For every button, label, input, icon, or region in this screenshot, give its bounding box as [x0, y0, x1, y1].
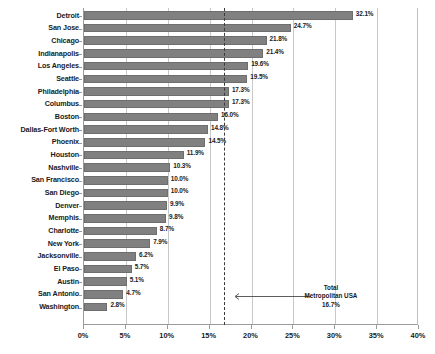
bar-value-label: 8.7%	[160, 225, 174, 232]
value-axis: 0%5%10%15%20%25%30%35%40%	[83, 325, 418, 347]
category-label: Chicago	[0, 35, 79, 48]
category-tick	[79, 155, 82, 156]
bar-row: 11.9%	[84, 149, 417, 162]
category-label: San Antonio	[0, 288, 79, 301]
bar-chart: DetroitSan JoseChicagoIndianapolisLos An…	[0, 0, 435, 354]
bar-row: 5.7%	[84, 263, 417, 276]
bar-row: 14.5%	[84, 136, 417, 149]
bar-value-label: 10.3%	[173, 162, 191, 169]
category-tick	[79, 130, 82, 131]
category-tick	[79, 41, 82, 42]
bar-value-label: 5.7%	[135, 263, 149, 270]
value-axis-label: 25%	[285, 331, 300, 340]
category-label: Charlotte	[0, 225, 79, 238]
bar-row: 14.8%	[84, 124, 417, 137]
category-tick	[79, 231, 82, 232]
bar	[84, 100, 229, 109]
category-tick	[79, 54, 82, 55]
bar-value-label: 7.9%	[153, 238, 167, 245]
bar-value-label: 5.1%	[130, 276, 144, 283]
value-axis-tick	[334, 325, 335, 329]
category-tick	[79, 282, 82, 283]
annotation-line-3: 16.7%	[286, 301, 376, 309]
category-tick	[79, 79, 82, 80]
bar	[84, 36, 267, 45]
category-label: Seattle	[0, 73, 79, 86]
bar-value-label: 9.9%	[170, 200, 184, 207]
category-tick	[79, 244, 82, 245]
reference-line-annotation: Total Metropolitan USA 16.7%	[286, 284, 376, 309]
value-axis-tick	[83, 325, 84, 329]
bar-value-label: 11.9%	[187, 149, 204, 156]
category-tick	[79, 67, 82, 68]
category-label: Phoenix	[0, 136, 79, 149]
category-tick	[79, 308, 82, 309]
annotation-line-1: Total	[286, 284, 376, 292]
bar	[84, 138, 205, 147]
value-axis-tick	[167, 325, 168, 329]
bar-row: 9.8%	[84, 212, 417, 225]
bar-row: 19.6%	[84, 60, 417, 73]
value-axis-tick	[418, 325, 419, 329]
bar-value-label: 19.5%	[250, 73, 268, 80]
plot-area: 32.1%24.7%21.8%21.4%19.6%19.5%17.3%17.3%…	[83, 8, 418, 325]
bar	[84, 151, 184, 160]
category-label: Houston	[0, 149, 79, 162]
bar-value-label: 17.3%	[232, 98, 250, 105]
category-label: Boston	[0, 111, 79, 124]
category-tick	[79, 16, 82, 17]
bar-row: 10.0%	[84, 187, 417, 200]
bar	[84, 11, 353, 20]
bar	[84, 113, 218, 122]
category-label: New York	[0, 238, 79, 251]
bar	[84, 176, 168, 185]
bar-row: 21.8%	[84, 35, 417, 48]
category-tick	[79, 29, 82, 30]
category-tick	[79, 181, 82, 182]
bar	[84, 201, 167, 210]
value-axis-tick	[251, 325, 252, 329]
bar	[84, 290, 123, 299]
bar-value-label: 6.2%	[139, 251, 153, 258]
bar-row: 17.3%	[84, 86, 417, 99]
bar-row: 16.0%	[84, 111, 417, 124]
category-tick	[79, 257, 82, 258]
category-label: Los Angeles	[0, 60, 79, 73]
bar	[84, 125, 208, 134]
bar-value-label: 32.1%	[356, 10, 374, 17]
category-tick	[79, 143, 82, 144]
value-axis-label: 35%	[369, 331, 384, 340]
bar	[84, 214, 166, 223]
reference-line	[224, 8, 225, 325]
value-axis-tick	[376, 325, 377, 329]
value-axis-label: 40%	[411, 331, 426, 340]
bar	[84, 277, 127, 286]
category-tick	[79, 168, 82, 169]
bar-row: 10.3%	[84, 162, 417, 175]
bar-value-label: 2.8%	[110, 301, 124, 308]
bar-row: 8.7%	[84, 225, 417, 238]
category-label: San Francisco	[0, 174, 79, 187]
value-axis-label: 10%	[159, 331, 174, 340]
category-label: El Paso	[0, 263, 79, 276]
category-tick	[79, 92, 82, 93]
bar-rows: 32.1%24.7%21.8%21.4%19.6%19.5%17.3%17.3%…	[84, 8, 417, 324]
bar-value-label: 21.4%	[266, 48, 284, 55]
category-tick	[79, 193, 82, 194]
category-label: Washington	[0, 301, 79, 314]
category-label: Detroit	[0, 10, 79, 23]
category-tick	[79, 219, 82, 220]
value-axis-tick	[209, 325, 210, 329]
bar-row: 10.0%	[84, 174, 417, 187]
bar-value-label: 17.3%	[232, 86, 250, 93]
bar	[84, 163, 170, 172]
category-tick	[79, 295, 82, 296]
bar-value-label: 14.8%	[211, 124, 229, 131]
bar-value-label: 4.7%	[126, 289, 140, 296]
value-axis-label: 20%	[243, 331, 258, 340]
bar-value-label: 21.8%	[270, 35, 288, 42]
bar-row: 7.9%	[84, 238, 417, 251]
category-tick	[79, 105, 82, 106]
bar-row: 9.9%	[84, 200, 417, 213]
category-label: Denver	[0, 200, 79, 213]
